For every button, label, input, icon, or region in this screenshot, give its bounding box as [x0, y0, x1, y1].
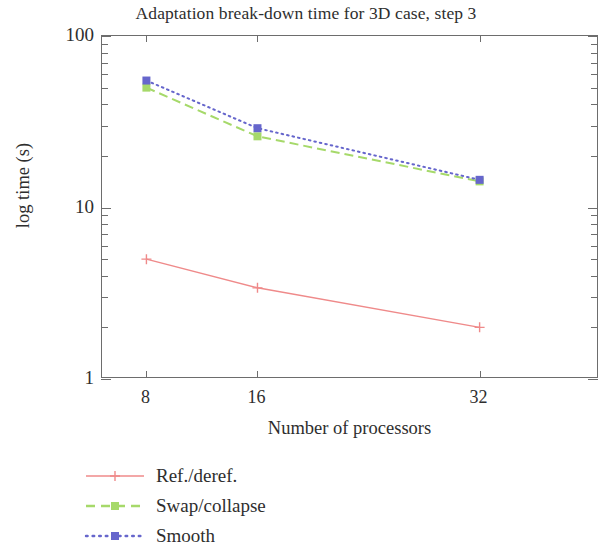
y-tick-minor — [101, 156, 108, 157]
series-group — [141, 77, 484, 333]
x-tick-label: 16 — [247, 387, 265, 408]
y-tick-minor — [101, 88, 108, 89]
legend-item[interactable]: Swap/collapse — [84, 491, 414, 521]
plot-area — [101, 35, 598, 378]
series-swap-collapse — [142, 84, 483, 186]
y-tick-minor — [101, 259, 108, 260]
y-tick-right-minor — [591, 224, 598, 225]
y-tick-right-minor — [591, 234, 598, 235]
y-tick-label: 10 — [75, 195, 94, 217]
chart-legend: Ref./deref.Swap/collapseSmooth — [84, 461, 414, 543]
data-point-marker — [142, 84, 150, 92]
y-tick-minor — [101, 327, 108, 328]
y-tick-minor — [101, 63, 108, 64]
x-tick — [146, 371, 147, 378]
y-tick-right-minor — [591, 259, 598, 260]
y-tick-right-minor — [591, 44, 598, 45]
y-axis-title: log time (s) — [13, 86, 34, 286]
y-tick-right-minor — [591, 104, 598, 105]
x-tick — [257, 371, 258, 378]
y-tick-label: 1 — [85, 367, 95, 389]
y-tick-minor — [101, 74, 108, 75]
y-tick-right-minor — [591, 126, 598, 127]
y-tick-minor — [101, 126, 108, 127]
series-line — [146, 259, 479, 327]
x-tick-top — [257, 35, 258, 42]
y-tick-right-minor — [591, 276, 598, 277]
series-line — [146, 81, 479, 180]
y-tick-minor — [101, 53, 108, 54]
data-point-marker — [253, 124, 261, 132]
y-tick-minor — [101, 234, 108, 235]
y-tick-right-major — [588, 36, 598, 37]
y-tick-right-minor — [591, 74, 598, 75]
data-point-marker — [142, 77, 150, 85]
y-tick-right-minor — [591, 88, 598, 89]
legend-label: Smooth — [146, 525, 215, 543]
y-tick-minor — [101, 246, 108, 247]
y-tick-minor — [101, 215, 108, 216]
y-tick-minor — [101, 276, 108, 277]
y-axis-tick-labels: 110100 — [42, 35, 94, 378]
y-tick-major — [101, 379, 111, 380]
y-tick-right-major — [588, 208, 598, 209]
data-point-marker — [475, 322, 485, 332]
y-tick-right-minor — [591, 63, 598, 64]
x-tick-top — [146, 35, 147, 42]
series-ref-deref — [141, 254, 484, 332]
x-tick-top — [480, 35, 481, 42]
legend-item[interactable]: Ref./deref. — [84, 461, 414, 491]
legend-label: Swap/collapse — [146, 495, 266, 517]
y-tick-right-minor — [591, 215, 598, 216]
y-tick-label: 100 — [66, 24, 95, 46]
legend-label: Ref./deref. — [146, 465, 237, 487]
legend-item[interactable]: Smooth — [84, 521, 414, 543]
chart-title: Adaptation break-down time for 3D case, … — [0, 3, 612, 24]
y-tick-minor — [101, 104, 108, 105]
data-point-marker — [252, 283, 262, 293]
y-tick-right-minor — [591, 246, 598, 247]
y-tick-major — [101, 208, 111, 209]
x-axis-title: Number of processors — [101, 418, 598, 439]
series-layer — [102, 36, 599, 379]
legend-swatch — [84, 496, 146, 516]
y-tick-major — [101, 36, 111, 37]
x-axis-tick-labels: 81632 — [101, 387, 598, 413]
y-tick-right-minor — [591, 156, 598, 157]
y-tick-right-minor — [591, 327, 598, 328]
data-point-marker — [476, 176, 484, 184]
series-smooth — [142, 77, 483, 184]
chart-figure: Adaptation break-down time for 3D case, … — [0, 0, 612, 543]
y-tick-right-major — [588, 379, 598, 380]
y-tick-minor — [101, 44, 108, 45]
x-tick-label: 32 — [470, 387, 488, 408]
y-tick-minor — [101, 224, 108, 225]
x-tick-label: 8 — [141, 387, 150, 408]
x-tick — [480, 371, 481, 378]
legend-swatch — [84, 466, 146, 486]
y-tick-minor — [101, 297, 108, 298]
y-tick-right-minor — [591, 53, 598, 54]
legend-swatch — [84, 526, 146, 543]
data-point-marker — [253, 132, 261, 140]
data-point-marker — [141, 254, 151, 264]
y-tick-right-minor — [591, 297, 598, 298]
